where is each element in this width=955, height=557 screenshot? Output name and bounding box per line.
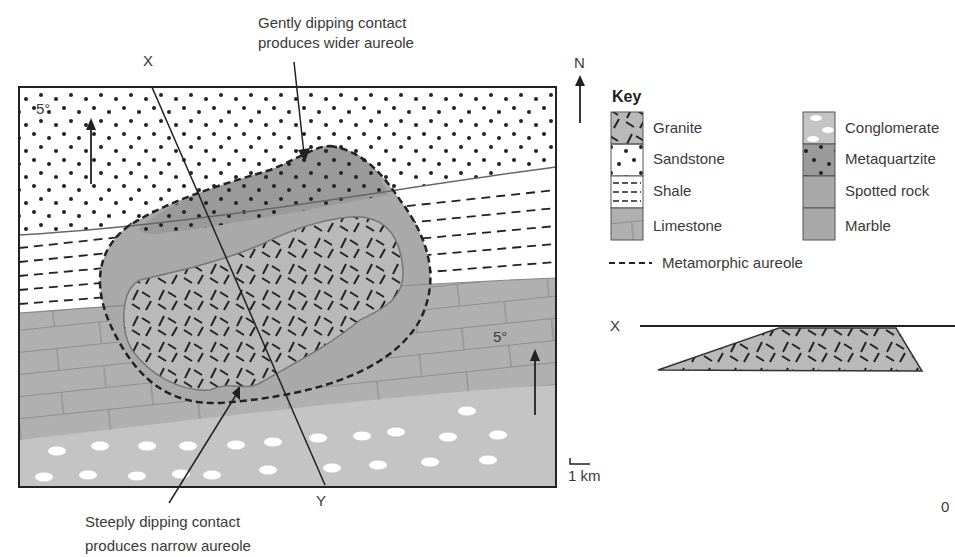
dip-label-right: 5°: [493, 328, 507, 345]
annotation-gentle-line1: Gently dipping contact: [258, 14, 407, 31]
key-label-sandstone: Sandstone: [653, 150, 725, 167]
key-label-marble: Marble: [845, 217, 891, 234]
north-arrowhead: [575, 75, 585, 86]
key-label-spotted-rock: Spotted rock: [845, 182, 930, 199]
key-label-conglomerate: Conglomerate: [845, 119, 939, 136]
key-swatch-conglomerate: [803, 112, 835, 144]
cross-section-granite: [658, 328, 922, 371]
scale-label: 1 km: [568, 467, 601, 484]
section-label-y-map: Y: [316, 492, 326, 509]
key-swatch-marble: [803, 208, 835, 240]
key-label-metaquartzite: Metaquartzite: [845, 150, 936, 167]
dip-label-left: 5°: [36, 100, 50, 117]
scale-zero-label: 0: [941, 498, 949, 515]
geological-map-diagram: Gently dipping contact produces wider au…: [0, 0, 955, 557]
key-swatches-left: [611, 112, 643, 240]
key-label-granite: Granite: [653, 119, 702, 136]
key-swatch-granite: [611, 112, 643, 144]
section-label-x-map: X: [143, 52, 153, 69]
key-label-shale: Shale: [653, 182, 691, 199]
key-swatch-sandstone: [611, 144, 643, 176]
key-swatch-limestone: [611, 208, 643, 240]
section-label-x-cross: X: [610, 317, 620, 334]
annotation-steep-line1: Steeply dipping contact: [85, 513, 241, 530]
annotation-gentle-line2: produces wider aureole: [258, 34, 414, 51]
key-swatch-metaquartzite: [803, 144, 835, 176]
key-swatch-shale: [611, 176, 643, 208]
annotation-steep-line2: produces narrow aureole: [85, 537, 251, 554]
geological-map: [19, 78, 556, 487]
scale-bar: [570, 458, 590, 464]
key-title: Key: [612, 88, 641, 105]
key-swatch-spotted-rock: [803, 176, 835, 208]
key-label-aureole: Metamorphic aureole: [662, 254, 803, 271]
key-label-limestone: Limestone: [653, 217, 722, 234]
north-label: N: [574, 54, 585, 71]
key-swatches-right: [803, 112, 835, 240]
